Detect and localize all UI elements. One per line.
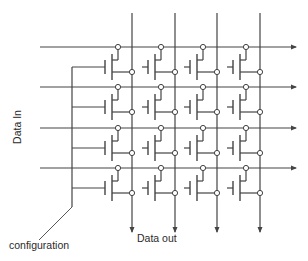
column-junction-node: [257, 109, 262, 114]
pass-transistor-cell: [142, 165, 178, 201]
pass-transistor-cell: [227, 44, 263, 80]
column-junction-node: [214, 69, 219, 74]
data-out-column-lines: [132, 13, 260, 232]
row-junction-node: [158, 165, 163, 170]
row-junction-node: [200, 84, 205, 89]
crossbar-switch-diagram: [0, 0, 308, 261]
column-junction-node: [129, 150, 134, 155]
pass-transistor-cell: [184, 165, 220, 201]
pass-transistor-cell: [184, 44, 220, 80]
column-junction-node: [129, 109, 134, 114]
pass-transistor-cell: [142, 84, 178, 120]
column-junction-node: [172, 190, 177, 195]
column-junction-node: [214, 190, 219, 195]
switch-cells: [72, 44, 263, 201]
row-junction-node: [115, 165, 120, 170]
pass-transistor-cell: [227, 84, 263, 120]
column-junction-node: [172, 69, 177, 74]
data-out-label: Data out: [137, 233, 177, 244]
row-junction-node: [243, 125, 248, 130]
row-junction-node: [115, 44, 120, 49]
row-junction-node: [243, 165, 248, 170]
column-junction-node: [129, 190, 134, 195]
column-junction-node: [214, 150, 219, 155]
row-junction-node: [158, 125, 163, 130]
pass-transistor-cell: [142, 44, 178, 80]
row-junction-node: [243, 44, 248, 49]
pass-transistor-cell: [142, 125, 178, 161]
column-junction-node: [257, 69, 262, 74]
data-in-label: Data In: [12, 110, 23, 144]
pass-transistor-cell: [72, 44, 135, 80]
column-junction-node: [257, 150, 262, 155]
row-junction-node: [200, 125, 205, 130]
column-junction-node: [214, 109, 219, 114]
configuration-leader-line: [39, 207, 72, 240]
column-junction-node: [129, 69, 134, 74]
pass-transistor-cell: [227, 125, 263, 161]
pass-transistor-cell: [72, 125, 135, 161]
column-junction-node: [172, 109, 177, 114]
row-junction-node: [243, 84, 248, 89]
row-junction-node: [158, 44, 163, 49]
row-junction-node: [200, 165, 205, 170]
row-junction-node: [115, 84, 120, 89]
column-junction-node: [172, 150, 177, 155]
pass-transistor-cell: [184, 84, 220, 120]
configuration-label: configuration: [9, 240, 69, 251]
pass-transistor-cell: [72, 84, 135, 120]
configuration-bus: [39, 67, 72, 240]
pass-transistor-cell: [72, 165, 135, 201]
row-junction-node: [200, 44, 205, 49]
row-junction-node: [158, 84, 163, 89]
pass-transistor-cell: [227, 165, 263, 201]
pass-transistor-cell: [184, 125, 220, 161]
column-junction-node: [257, 190, 262, 195]
row-junction-node: [115, 125, 120, 130]
